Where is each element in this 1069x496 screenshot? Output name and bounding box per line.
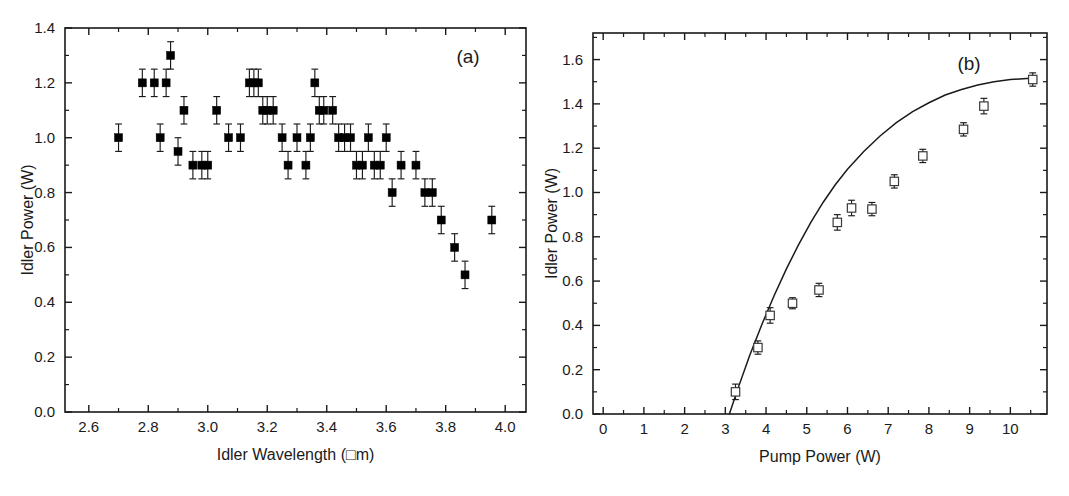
y-tick-label: 1.2 (34, 74, 55, 91)
data-point (320, 97, 328, 124)
x-tick-label: 2.6 (78, 418, 99, 435)
y-tick-label: 1.0 (34, 129, 55, 146)
y-tick-label: 0.8 (562, 228, 583, 245)
data-point (269, 97, 277, 124)
y-tick-label: 0.2 (34, 348, 55, 365)
marker-filled-square (150, 79, 158, 87)
data-point (293, 124, 301, 151)
plot-frame (65, 28, 526, 412)
y-tick-label: 0.4 (34, 293, 55, 310)
marker-filled-square (461, 271, 469, 279)
data-point (254, 69, 262, 96)
marker-filled-square (306, 134, 314, 142)
data-point (364, 124, 372, 151)
data-point (329, 97, 337, 124)
marker-open-square (754, 343, 762, 351)
marker-filled-square (162, 79, 170, 87)
marker-open-square (731, 388, 739, 396)
chart-svg-a: 2.62.83.03.23.43.63.84.00.00.20.40.60.81… (0, 0, 535, 496)
data-point (347, 124, 355, 151)
x-tick-label: 3.0 (197, 418, 218, 435)
x-tick-label: 3.6 (376, 418, 397, 435)
data-point (421, 179, 429, 206)
plot-frame (593, 33, 1047, 414)
x-tick-label: 8 (925, 420, 933, 437)
y-tick-label: 1.4 (34, 19, 55, 36)
x-tick-label: 0 (599, 420, 607, 437)
data-point (138, 69, 146, 96)
x-tick-label: 4.0 (495, 418, 516, 435)
marker-filled-square (358, 161, 366, 169)
marker-filled-square (376, 161, 384, 169)
data-point (451, 234, 459, 261)
x-tick-label: 4 (762, 420, 770, 437)
x-tick-label: 3.2 (257, 418, 278, 435)
y-tick-label: 1.2 (562, 139, 583, 156)
data-point (156, 124, 164, 151)
marker-open-square (1029, 75, 1037, 83)
marker-open-square (919, 152, 927, 160)
marker-open-square (788, 299, 796, 307)
data-point (302, 151, 310, 178)
data-point (788, 298, 796, 309)
marker-open-square (766, 311, 774, 319)
data-point (890, 175, 898, 188)
marker-open-square (868, 205, 876, 213)
marker-filled-square (451, 243, 459, 251)
data-point (189, 151, 197, 178)
data-point (833, 215, 841, 231)
x-axis-label: Pump Power (W) (759, 448, 881, 465)
marker-filled-square (428, 189, 436, 197)
data-point (388, 179, 396, 206)
marker-filled-square (302, 161, 310, 169)
marker-open-square (890, 177, 898, 185)
data-point (382, 124, 390, 151)
marker-filled-square (213, 106, 221, 114)
marker-filled-square (269, 106, 277, 114)
data-point (815, 283, 823, 296)
y-axis-label: Idler Power (W) (543, 168, 560, 279)
marker-filled-square (329, 106, 337, 114)
data-point (225, 124, 233, 151)
marker-filled-square (225, 134, 233, 142)
chart-panel-a: 2.62.83.03.23.43.63.84.00.00.20.40.60.81… (0, 0, 535, 496)
marker-filled-square (167, 51, 175, 59)
y-tick-label: 1.0 (562, 183, 583, 200)
marker-filled-square (284, 161, 292, 169)
data-point (868, 202, 876, 215)
data-point (980, 98, 988, 114)
data-point (162, 69, 170, 96)
data-point (766, 308, 774, 324)
marker-filled-square (382, 134, 390, 142)
marker-filled-square (388, 189, 396, 197)
marker-open-square (833, 218, 841, 226)
data-point (150, 69, 158, 96)
data-point (278, 124, 286, 151)
x-tick-label: 2 (680, 420, 688, 437)
fit-curve (729, 78, 1034, 414)
y-tick-label: 0.6 (562, 272, 583, 289)
marker-filled-square (156, 134, 164, 142)
data-point (358, 151, 366, 178)
x-tick-label: 6 (843, 420, 851, 437)
y-tick-label: 1.6 (562, 51, 583, 68)
data-point (1029, 73, 1037, 86)
x-tick-label: 5 (803, 420, 811, 437)
marker-filled-square (437, 216, 445, 224)
marker-filled-square (412, 161, 420, 169)
x-tick-label: 2.8 (138, 418, 159, 435)
data-point (847, 200, 855, 216)
marker-filled-square (278, 134, 286, 142)
x-tick-label: 3.8 (435, 418, 456, 435)
marker-filled-square (320, 106, 328, 114)
data-point (412, 151, 420, 178)
marker-filled-square (115, 134, 123, 142)
data-point (167, 42, 175, 69)
data-point (284, 151, 292, 178)
data-point (488, 206, 496, 233)
marker-filled-square (236, 134, 244, 142)
marker-filled-square (204, 161, 212, 169)
x-tick-label: 7 (884, 420, 892, 437)
data-point (919, 149, 927, 162)
data-point (311, 69, 319, 96)
